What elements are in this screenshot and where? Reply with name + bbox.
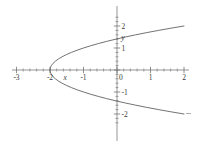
y-tick-label: -1 — [122, 88, 128, 97]
y-tick-label: 1 — [122, 44, 126, 53]
x-tick-label: 2 — [182, 73, 186, 82]
y-tick-label: 2 — [122, 22, 126, 31]
x-tick-label: -3 — [13, 73, 19, 82]
x-tick-labels: -3-2-1012 — [13, 73, 186, 82]
plot-canvas: -3-2-1012 -2-112 xy — [0, 0, 198, 145]
axis-label-y: y — [120, 33, 125, 42]
x-tick-label: -2 — [47, 73, 53, 82]
parabola-figure: -3-2-1012 -2-112 xy — [0, 0, 198, 145]
x-tick-label: -1 — [80, 73, 86, 82]
y-tick-label: -2 — [122, 110, 128, 119]
x-tick-label: 0 — [119, 73, 123, 82]
axis-label-x: x — [62, 73, 67, 82]
axes-group — [12, 6, 189, 141]
x-tick-label: 1 — [149, 73, 153, 82]
